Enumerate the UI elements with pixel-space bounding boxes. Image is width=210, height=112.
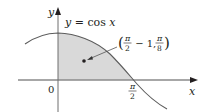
svg-text:): ) — [164, 34, 170, 52]
x-axis-label: x — [189, 85, 196, 98]
svg-text:2: 2 — [130, 92, 135, 101]
y-axis-arrow-icon — [55, 7, 61, 15]
curve-label: y = cos x — [64, 16, 116, 29]
centroid-diagram: y y = cos x 0 x π 2 ( π 2 − 1, π 8 ) — [0, 0, 210, 112]
svg-text:− 1,: − 1, — [132, 38, 159, 49]
svg-text:2: 2 — [125, 44, 130, 53]
centroid-point — [82, 59, 86, 63]
svg-text:π: π — [129, 82, 136, 91]
centroid-label: ( π 2 − 1, π 8 ) — [118, 34, 170, 53]
svg-text:8: 8 — [157, 44, 162, 53]
x-tick-pi-over-2: π 2 — [129, 82, 137, 101]
svg-text:π: π — [124, 34, 131, 43]
x-axis-arrow-icon — [190, 77, 198, 83]
origin-label: 0 — [48, 84, 54, 95]
y-axis-label: y — [47, 6, 55, 19]
svg-text:(: ( — [118, 34, 124, 52]
svg-text:π: π — [156, 34, 163, 43]
